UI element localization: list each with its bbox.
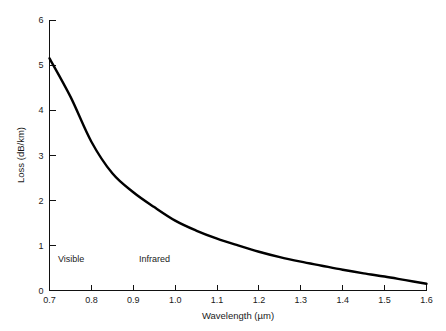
- x-tick-label: 0.9: [127, 295, 140, 305]
- x-tick-label: 1.3: [295, 295, 308, 305]
- chart-container: 0123456 0.70.80.91.01.11.21.31.41.51.6 V…: [0, 0, 446, 331]
- region-label-infrared: Infrared: [139, 254, 170, 264]
- x-tick-label: 0.7: [43, 295, 56, 305]
- x-tick-label: 0.8: [85, 295, 98, 305]
- chart-background: [0, 0, 446, 331]
- y-tick-label: 1: [38, 241, 43, 251]
- x-tick-label: 1.6: [420, 295, 433, 305]
- y-tick-label: 4: [38, 105, 43, 115]
- x-tick-label: 1.0: [169, 295, 182, 305]
- region-label-visible: Visible: [58, 254, 84, 264]
- y-axis-title: Loss (dB/km): [15, 127, 26, 183]
- y-tick-label: 5: [38, 60, 43, 70]
- x-tick-label: 1.2: [253, 295, 266, 305]
- x-axis-title: Wavelength (µm): [202, 310, 274, 321]
- y-tick-label: 3: [38, 151, 43, 161]
- loss-vs-wavelength-chart: 0123456 0.70.80.91.01.11.21.31.41.51.6 V…: [0, 0, 446, 331]
- x-tick-label: 1.1: [211, 295, 224, 305]
- y-tick-label: 2: [38, 196, 43, 206]
- x-tick-label: 1.4: [336, 295, 349, 305]
- x-tick-label: 1.5: [378, 295, 391, 305]
- y-tick-label: 6: [38, 15, 43, 25]
